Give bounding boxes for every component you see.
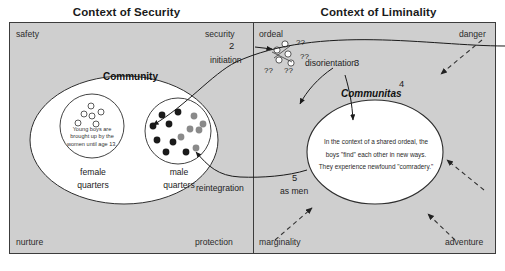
- corner-label-adventure: adventure: [445, 237, 483, 247]
- note-communitas-line3: They experience newfound "comradery.": [305, 161, 447, 174]
- label-male-quarters-line2: quarters: [150, 179, 208, 192]
- label-community: Community: [103, 71, 158, 82]
- label-female-quarters: female quarters: [64, 166, 122, 192]
- label-female-quarters-line1: female: [64, 166, 122, 179]
- diagram-canvas: Context of Security Context of Liminalit…: [0, 0, 505, 271]
- label-initiation: initiation: [210, 55, 242, 65]
- step-number-2: 2: [229, 40, 234, 51]
- note-young-boys-line1: Young boys are: [58, 126, 126, 133]
- corner-label-nurture: nurture: [16, 237, 43, 247]
- corner-label-safety: safety: [16, 29, 39, 39]
- label-female-quarters-line2: quarters: [64, 179, 122, 192]
- label-communitas: Communitas: [341, 88, 402, 99]
- corner-label-protection: protection: [195, 237, 233, 247]
- label-disorientation: disorientation: [305, 58, 356, 68]
- step-number-3: 3: [354, 57, 359, 68]
- label-as-men: as men: [280, 186, 308, 196]
- corner-label-danger: danger: [459, 29, 486, 39]
- note-young-boys-line2: brought up by the: [58, 133, 126, 140]
- question-mark-4: ??: [284, 66, 293, 75]
- note-communitas: In the context of a shared ordeal, the b…: [305, 136, 447, 174]
- note-communitas-line2: boys "find" each other in new ways.: [305, 149, 447, 162]
- note-communitas-line1: In the context of a shared ordeal, the: [305, 136, 447, 149]
- label-male-quarters-line1: male: [150, 166, 208, 179]
- corner-label-ordeal: ordeal: [259, 29, 283, 39]
- arrow-disorientation: [300, 68, 333, 104]
- arrow-ordeal-entry: [255, 47, 272, 49]
- step-number-4: 4: [399, 78, 404, 89]
- label-male-quarters: male quarters: [150, 166, 208, 192]
- corner-label-security: security: [205, 29, 235, 39]
- step-number-5: 5: [292, 172, 297, 183]
- note-young-boys-line3: women until age 13.: [58, 141, 126, 148]
- note-young-boys: Young boys are brought up by the women u…: [58, 126, 126, 148]
- liminal-dots: [274, 41, 294, 66]
- corner-label-marginality: marginality: [259, 237, 301, 247]
- question-mark-3: ??: [264, 66, 273, 75]
- question-mark-1: ??: [296, 38, 305, 47]
